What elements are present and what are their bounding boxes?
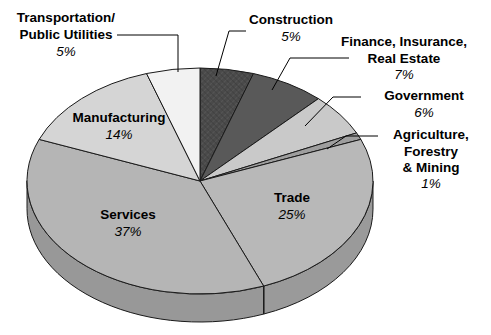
slice-label-finance-insurance-real-estate: Real Estate — [368, 51, 441, 66]
pie-slice-tops — [27, 68, 373, 294]
slice-percent-manufacturing: 14% — [105, 127, 132, 142]
slice-percent-government: 6% — [414, 105, 434, 120]
slice-percent-trade: 25% — [277, 207, 305, 222]
slice-label-finance-insurance-real-estate: Finance, Insurance, — [341, 34, 467, 49]
slice-percent-services: 37% — [114, 224, 141, 239]
slice-percent-construction: 5% — [281, 29, 301, 44]
slice-label-manufacturing: Manufacturing — [73, 110, 166, 125]
slice-label-agriculture-forestry-mining: & Mining — [403, 160, 460, 175]
slice-percent-transportation-public-utilities: 5% — [56, 44, 76, 59]
slice-label-agriculture-forestry-mining: Agriculture, — [393, 127, 469, 142]
pie-chart-figure: Construction5%Finance, Insurance,Real Es… — [0, 0, 491, 335]
slice-percent-finance-insurance-real-estate: 7% — [394, 67, 414, 82]
slice-label-construction: Construction — [249, 12, 333, 27]
slice-percent-agriculture-forestry-mining: 1% — [421, 176, 441, 191]
slice-label-services: Services — [100, 207, 156, 222]
pie-chart-svg: Construction5%Finance, Insurance,Real Es… — [0, 0, 491, 335]
slice-label-government: Government — [384, 88, 464, 103]
slice-label-trade: Trade — [274, 190, 311, 205]
slice-label-agriculture-forestry-mining: Forestry — [404, 144, 459, 159]
slice-label-transportation-public-utilities: Public Utilities — [19, 27, 112, 42]
slice-label-transportation-public-utilities: Transportation/ — [17, 10, 116, 25]
leader-line-transportation-public-utilities — [117, 35, 178, 72]
